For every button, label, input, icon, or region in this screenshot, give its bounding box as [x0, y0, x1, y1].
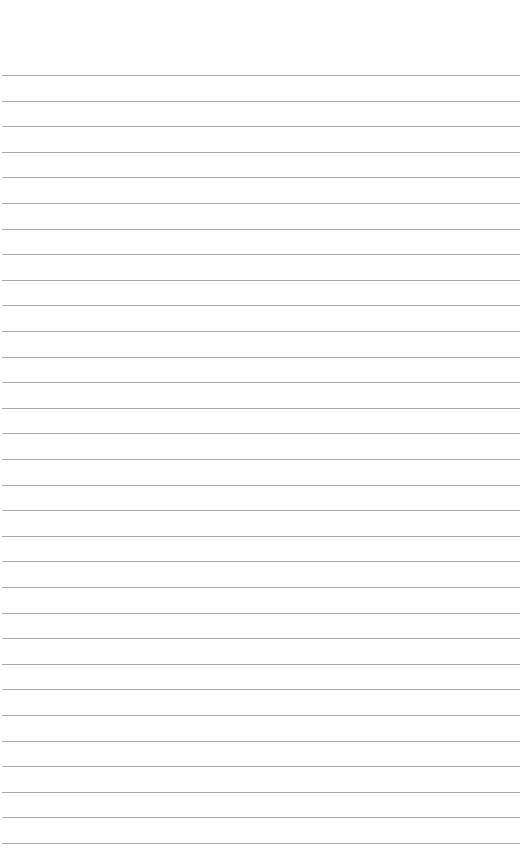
ruled-line	[2, 331, 520, 332]
ruled-line	[2, 305, 520, 306]
ruled-line	[2, 382, 520, 383]
ruled-line	[2, 433, 520, 434]
ruled-line	[2, 357, 520, 358]
lined-paper-page	[0, 0, 526, 867]
ruled-line	[2, 689, 520, 690]
ruled-line	[2, 817, 520, 818]
ruled-line	[2, 459, 520, 460]
ruled-line	[2, 126, 520, 127]
ruled-line	[2, 101, 520, 102]
ruled-line	[2, 843, 520, 844]
ruled-line	[2, 536, 520, 537]
ruled-line	[2, 510, 520, 511]
ruled-line	[2, 203, 520, 204]
ruled-line	[2, 254, 520, 255]
ruled-line	[2, 741, 520, 742]
ruled-line	[2, 152, 520, 153]
ruled-line	[2, 408, 520, 409]
ruled-line	[2, 638, 520, 639]
ruled-line	[2, 613, 520, 614]
ruled-line	[2, 561, 520, 562]
ruled-line	[2, 664, 520, 665]
ruled-line	[2, 177, 520, 178]
ruled-line	[2, 766, 520, 767]
ruled-line	[2, 715, 520, 716]
ruled-line	[2, 485, 520, 486]
ruled-line	[2, 792, 520, 793]
ruled-line	[2, 280, 520, 281]
ruled-line	[2, 229, 520, 230]
ruled-line	[2, 75, 520, 76]
ruled-line	[2, 587, 520, 588]
